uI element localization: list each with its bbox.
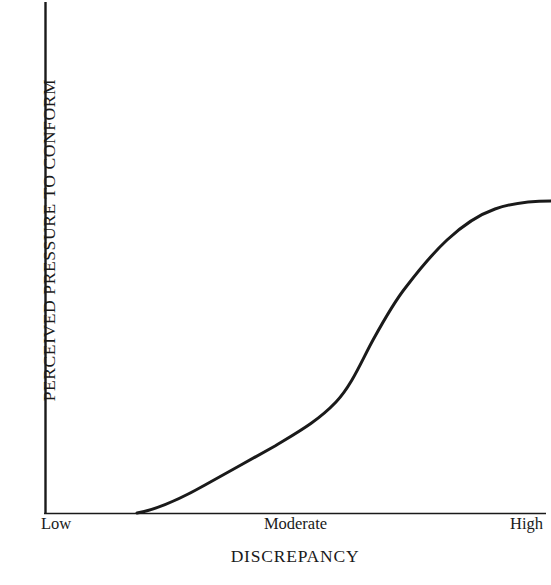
y-axis-label: PERCEIVED PRESSURE TO CONFORM [34,0,64,500]
x-axis-label: DISCREPANCY [45,546,545,567]
chart-plot-area [0,0,551,585]
x-tick-label-moderate: Moderate [0,514,551,534]
x-tick-label-high: High [510,514,543,534]
data-curve-sigmoid [137,201,551,513]
chart-figure: PERCEIVED PRESSURE TO CONFORM Low Modera… [0,0,551,585]
